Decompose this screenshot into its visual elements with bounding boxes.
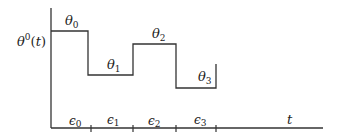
x-axis-label: t [287,112,293,127]
level-label-0: θ0 [65,13,79,30]
level-label-2: θ2 [152,26,166,43]
step-diagram: θ0(t) θ0 θ1 θ2 θ3 ϵ0 ϵ1 ϵ2 ϵ3 t [0,0,339,139]
level-label-3: θ3 [198,69,212,86]
interval-label-2: ϵ2 [148,114,160,129]
y-axis-label: θ0(t) [17,32,46,49]
interval-label-0: ϵ0 [69,114,82,129]
interval-label-1: ϵ1 [107,113,119,128]
level-label-1: θ1 [107,57,121,74]
step-function-line [51,31,216,88]
interval-label-3: ϵ3 [194,113,207,128]
